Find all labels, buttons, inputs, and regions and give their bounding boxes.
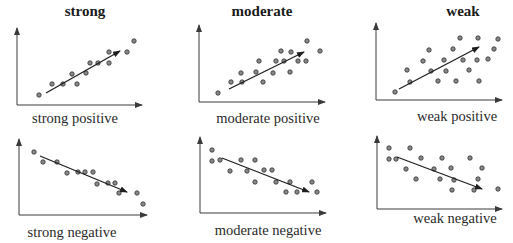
data-point	[450, 188, 454, 192]
data-point	[32, 150, 36, 154]
data-point	[91, 170, 95, 174]
trend-arrow-icon	[46, 51, 120, 93]
plot-label-moderate-positive: moderate positive	[216, 110, 319, 127]
data-point	[408, 146, 412, 150]
data-point	[75, 82, 79, 86]
data-point	[492, 47, 496, 51]
column-title-moderate: moderate	[232, 3, 293, 20]
data-point	[427, 48, 431, 52]
data-point	[210, 148, 214, 152]
column-title-weak: weak	[446, 3, 479, 20]
data-point	[295, 190, 299, 194]
data-point	[50, 82, 54, 86]
data-point	[88, 61, 92, 65]
plot-label-weak-negative: weak negative	[413, 210, 496, 227]
data-point	[486, 57, 490, 61]
plot-label-moderate-negative: moderate negative	[215, 222, 322, 239]
data-point	[261, 80, 265, 84]
data-point	[454, 79, 458, 83]
data-point	[404, 167, 408, 171]
correlation-strength-diagram: strong moderate weak strong positive mod…	[0, 0, 513, 243]
plot-weak-positive	[376, 23, 502, 100]
data-point	[37, 93, 41, 97]
data-point	[310, 180, 314, 184]
data-point	[451, 47, 455, 51]
data-point	[132, 39, 136, 43]
data-point	[113, 181, 117, 185]
data-point	[262, 168, 266, 172]
data-point	[254, 70, 258, 74]
data-point	[216, 91, 220, 95]
data-point	[480, 166, 484, 170]
data-point	[440, 156, 444, 160]
data-point	[496, 187, 500, 191]
data-point	[239, 71, 243, 75]
plot-weak-negative	[377, 136, 502, 209]
data-point	[476, 36, 480, 40]
plot-label-strong-negative: strong negative	[28, 224, 117, 241]
data-point	[421, 59, 425, 63]
data-point	[257, 59, 261, 63]
trend-arrow-icon	[229, 52, 304, 89]
column-title-strong: strong	[65, 3, 106, 20]
data-point	[467, 68, 471, 72]
data-point	[436, 79, 440, 83]
data-point	[475, 58, 479, 62]
data-point	[288, 70, 292, 74]
data-point	[270, 168, 274, 172]
data-point	[253, 180, 257, 184]
data-point	[461, 58, 465, 62]
trend-arrow-icon	[397, 157, 482, 189]
data-point	[296, 59, 300, 63]
plot-strong-negative	[19, 139, 147, 215]
data-point	[274, 180, 278, 184]
data-point	[477, 79, 481, 83]
data-point	[41, 160, 45, 164]
data-point	[405, 68, 409, 72]
data-point	[107, 50, 111, 54]
data-point	[289, 50, 293, 54]
data-point	[419, 156, 423, 160]
data-point	[70, 72, 74, 76]
data-point	[125, 50, 129, 54]
data-point	[496, 37, 500, 41]
data-point	[444, 69, 448, 73]
data-point	[274, 59, 278, 63]
data-point	[318, 49, 322, 53]
data-point	[414, 177, 418, 181]
data-point	[458, 36, 462, 40]
plot-label-weak-positive: weak positive	[417, 108, 497, 125]
data-point	[95, 182, 99, 186]
data-point	[210, 159, 214, 163]
plot-label-strong-positive: strong positive	[32, 110, 118, 127]
data-point	[239, 158, 243, 162]
data-point	[305, 39, 309, 43]
data-point	[449, 166, 453, 170]
data-point	[279, 49, 283, 53]
data-point	[228, 169, 232, 173]
data-point	[284, 190, 288, 194]
plot-moderate-positive	[199, 25, 325, 102]
data-point	[472, 188, 476, 192]
data-point	[387, 146, 391, 150]
plot-moderate-negative	[200, 137, 326, 213]
data-point	[393, 90, 397, 94]
data-point	[253, 158, 257, 162]
data-point	[304, 59, 308, 63]
data-point	[438, 177, 442, 181]
data-point	[141, 202, 145, 206]
plot-strong-positive	[17, 28, 142, 105]
data-point	[218, 158, 222, 162]
trend-arrow-icon	[40, 156, 127, 192]
data-point	[442, 58, 446, 62]
data-point	[315, 190, 319, 194]
data-point	[245, 169, 249, 173]
data-point	[229, 80, 233, 84]
data-point	[476, 177, 480, 181]
data-point	[271, 71, 275, 75]
data-point	[65, 171, 69, 175]
data-point	[468, 156, 472, 160]
data-point	[117, 191, 121, 195]
trend-arrow-icon	[222, 158, 309, 192]
data-point	[107, 61, 111, 65]
